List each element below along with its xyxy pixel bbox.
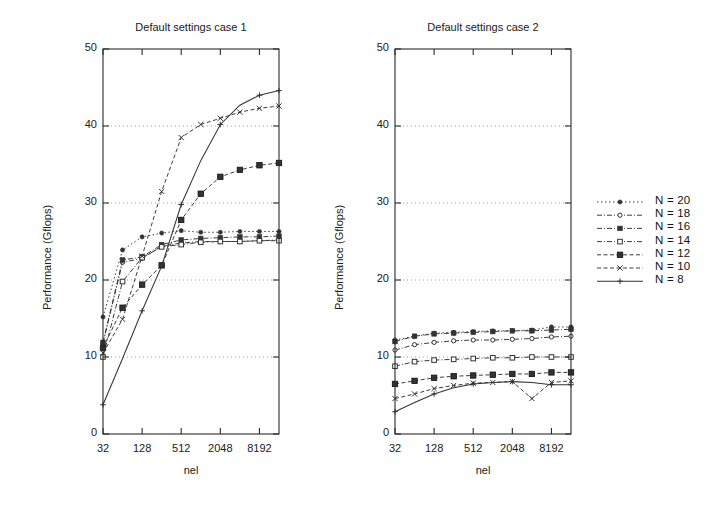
x-tick-label: 8192 [234, 442, 284, 454]
legend-label-n=10[interactable]: N = 10 [655, 260, 690, 272]
legend-sample-n=18 [597, 213, 643, 217]
panel-title-2: Default settings case 2 [373, 21, 593, 33]
x-axis-label-2: nel [453, 464, 513, 476]
legend-sample-n=8 [597, 278, 643, 284]
series-n=8 [100, 88, 282, 408]
y-tick-label: 10 [59, 349, 97, 361]
y-tick-label: 30 [59, 195, 97, 207]
y-axis-label-1: Performance (Gflops) [41, 204, 53, 309]
series-n=10 [392, 378, 573, 401]
legend-sample-n=16 [597, 226, 643, 231]
series-n=20 [393, 325, 573, 342]
y-tick-label: 0 [351, 426, 389, 438]
legend-label-n=12[interactable]: N = 12 [655, 247, 690, 259]
legend-label-n=8[interactable]: N = 8 [655, 273, 684, 285]
legend-sample-n=10 [597, 265, 643, 270]
series-n=12 [392, 370, 573, 387]
y-tick-label: 40 [351, 118, 389, 130]
series-n=12 [100, 160, 281, 350]
y-tick-label: 50 [351, 41, 389, 53]
y-tick-label: 10 [351, 349, 389, 361]
series-n=18 [393, 334, 573, 352]
x-axis-label-1: nel [161, 464, 221, 476]
plot-frame [395, 49, 571, 434]
legend-sample-n=12 [597, 252, 643, 257]
y-tick-label: 50 [59, 41, 97, 53]
y-tick-label: 20 [59, 272, 97, 284]
y-tick-label: 0 [59, 426, 97, 438]
gridlines [103, 126, 279, 357]
legend-label-n=20[interactable]: N = 20 [655, 194, 690, 206]
y-tick-label: 20 [351, 272, 389, 284]
series-n=10 [100, 103, 281, 355]
legend-label-n=16[interactable]: N = 16 [655, 220, 690, 232]
series-n=16 [393, 327, 574, 344]
legend-sample-n=20 [597, 200, 643, 204]
series-n=8 [392, 379, 574, 415]
series-n=20 [101, 229, 281, 319]
series-n=18 [101, 238, 281, 345]
plot-frame [103, 49, 279, 434]
legend-sample-n=14 [597, 239, 643, 244]
gridlines [395, 126, 571, 357]
series-n=16 [101, 234, 282, 345]
series-n=14 [393, 355, 574, 369]
series-n=14 [101, 238, 282, 359]
y-axis-label-2: Performance (Gflops) [333, 204, 345, 309]
y-tick-label: 30 [351, 195, 389, 207]
legend-label-n=14[interactable]: N = 14 [655, 234, 690, 246]
x-tick-label: 8192 [526, 442, 576, 454]
y-tick-label: 40 [59, 118, 97, 130]
legend-label-n=18[interactable]: N = 18 [655, 207, 690, 219]
panel-title-1: Default settings case 1 [81, 21, 301, 33]
figure-root: Default settings case 101020304050321285… [0, 0, 724, 509]
